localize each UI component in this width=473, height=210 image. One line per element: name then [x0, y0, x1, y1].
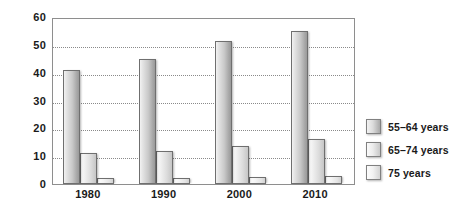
y-axis-tick-40: 40 [2, 68, 46, 79]
legend-item-75: 75 years [366, 162, 471, 183]
y-axis-tick-10: 10 [2, 151, 46, 162]
bar-2000-65-74 [232, 146, 249, 184]
x-axis-tick-1980: 1980 [50, 188, 125, 201]
x-axis-tick-2000: 2000 [202, 188, 277, 201]
x-axis-labels: 1980199020002010 [52, 188, 355, 208]
bar-2010-75 [325, 176, 342, 184]
bar-2010-55-64 [291, 31, 308, 184]
bar-group-2010 [291, 19, 342, 184]
bar-1990-75 [173, 178, 190, 184]
y-axis-tick-30: 30 [2, 96, 46, 107]
bar-1980-75 [97, 178, 114, 184]
bar-group-1990 [139, 19, 190, 184]
bar-group-1980 [63, 19, 114, 184]
plot-area [52, 18, 355, 185]
bar-1980-65-74 [80, 153, 97, 184]
bar-chart: 60 50 40 30 20 10 0 1980199020002010 55–… [0, 0, 473, 210]
x-axis-tick-2010: 2010 [278, 188, 353, 201]
legend-item-55-64: 55–64 years [366, 116, 471, 137]
bar-1990-55-64 [139, 59, 156, 184]
legend-swatch-icon-65-74 [366, 142, 381, 157]
y-axis-tick-0: 0 [2, 179, 46, 190]
bar-groups [53, 19, 354, 184]
bar-group-2000 [215, 19, 266, 184]
legend-swatch-icon-55-64 [366, 119, 381, 134]
x-axis-tick-1990: 1990 [126, 188, 201, 201]
legend-swatch-icon-75 [366, 165, 381, 180]
bar-2000-75 [249, 177, 266, 184]
bar-2010-65-74 [308, 139, 325, 184]
y-axis-labels: 60 50 40 30 20 10 0 [0, 0, 46, 210]
legend-item-65-74: 65–74 years [366, 139, 471, 160]
bar-1990-65-74 [156, 151, 173, 184]
y-axis-tick-50: 50 [2, 40, 46, 51]
y-axis-tick-20: 20 [2, 123, 46, 134]
bar-1980-55-64 [63, 70, 80, 184]
legend-label-55-64: 55–64 years [388, 121, 449, 133]
bar-2000-55-64 [215, 41, 232, 184]
legend-label-75: 75 years [388, 167, 431, 179]
chart-legend: 55–64 years 65–74 years 75 years [366, 116, 471, 185]
legend-label-65-74: 65–74 years [388, 144, 449, 156]
y-axis-tick-60: 60 [2, 12, 46, 23]
